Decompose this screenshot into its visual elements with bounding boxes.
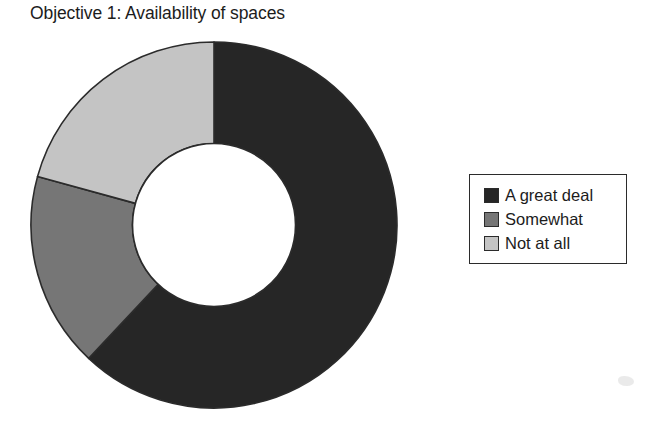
legend-swatch-not-at-all [484,236,499,251]
chart-legend: A great deal Somewhat Not at all [469,174,627,264]
legend-swatch-somewhat [484,212,499,227]
legend-item-not-at-all[interactable]: Not at all [484,231,626,255]
legend-label-a-great-deal: A great deal [505,186,593,205]
chart-title: Objective 1: Availability of spaces [30,2,285,24]
donut-hole [133,144,296,307]
legend-label-somewhat: Somewhat [505,210,583,229]
legend-swatch-a-great-deal [484,188,499,203]
legend-item-somewhat[interactable]: Somewhat [484,207,626,231]
scan-artifact [618,376,634,386]
donut-chart-plot-area [30,41,398,409]
legend-label-not-at-all: Not at all [505,234,570,253]
donut-chart-svg [30,41,398,409]
donut-chart-figure: Objective 1: Availability of spaces A gr… [0,0,660,422]
legend-item-a-great-deal[interactable]: A great deal [484,183,626,207]
